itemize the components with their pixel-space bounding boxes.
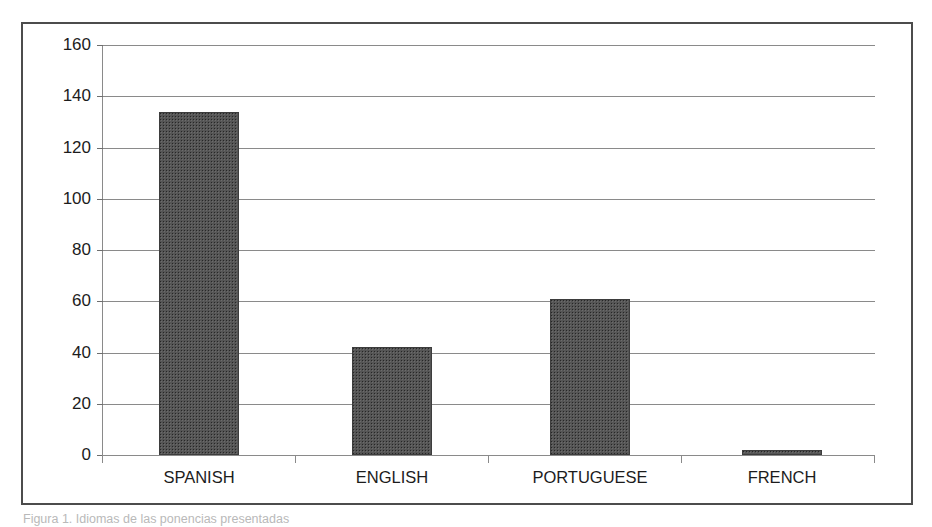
y-tick-20 [97, 404, 103, 405]
y-tick-140 [97, 96, 103, 97]
y-axis-label-60: 60 [72, 291, 91, 311]
gridline-140 [102, 96, 875, 97]
y-axis-label-80: 80 [72, 240, 91, 260]
y-tick-120 [97, 148, 103, 149]
x-tick-1 [295, 455, 296, 463]
y-axis-label-120: 120 [63, 138, 91, 158]
bar-french [742, 450, 822, 455]
bar-portuguese [550, 299, 630, 455]
figure-caption: Figura 1. Idiomas de las ponencias prese… [23, 512, 913, 527]
x-tick-2 [488, 455, 489, 463]
chart-frame: 020406080100120140160 SPANISHENGLISHPORT… [21, 22, 913, 505]
x-tick-4 [874, 455, 875, 463]
y-tick-80 [97, 250, 103, 251]
gridline-160 [102, 45, 875, 46]
y-tick-60 [97, 301, 103, 302]
y-axis-label-100: 100 [63, 189, 91, 209]
bar-english [352, 347, 432, 455]
y-axis-label-20: 20 [72, 394, 91, 414]
y-tick-160 [97, 45, 103, 46]
y-axis-label-140: 140 [63, 86, 91, 106]
y-tick-100 [97, 199, 103, 200]
y-axis-label-0: 0 [82, 445, 91, 465]
x-tick-3 [681, 455, 682, 463]
x-axis-label-french: FRENCH [748, 468, 817, 487]
x-tick-0 [102, 455, 103, 463]
bar-spanish [159, 112, 239, 455]
x-axis-label-english: ENGLISH [356, 468, 428, 487]
plot-area: 020406080100120140160 SPANISHENGLISHPORT… [102, 45, 875, 455]
x-axis-label-spanish: SPANISH [163, 468, 234, 487]
y-axis-label-160: 160 [63, 35, 91, 55]
y-axis-label-40: 40 [72, 343, 91, 363]
figure: 020406080100120140160 SPANISHENGLISHPORT… [0, 0, 932, 527]
x-axis-label-portuguese: PORTUGUESE [532, 468, 647, 487]
y-tick-40 [97, 353, 103, 354]
